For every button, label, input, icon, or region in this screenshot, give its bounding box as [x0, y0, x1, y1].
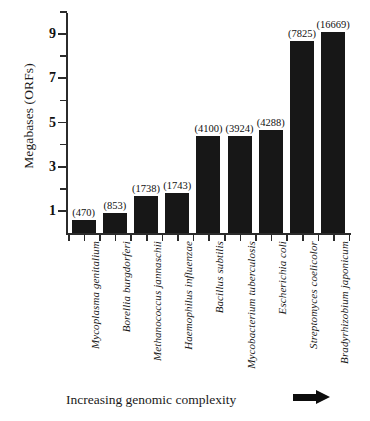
y-axis-title: Megabases (ORFs) [21, 21, 37, 211]
y-axis-line [66, 13, 68, 235]
x-tick [333, 234, 335, 241]
y-tick-minor [60, 100, 67, 102]
x-axis-caption: Increasing genomic complexity [66, 392, 236, 408]
bar-value-label: (16669) [309, 20, 357, 31]
x-tick [240, 234, 242, 241]
bar-value-label: (1743) [153, 181, 201, 192]
bar [228, 136, 252, 233]
arrow-head [316, 390, 330, 404]
category-label: Bacillus subtilis [213, 241, 225, 313]
y-tick-label: 3 [36, 160, 56, 174]
right-arrow-icon [293, 390, 331, 403]
x-tick [349, 234, 351, 241]
y-tick-minor [60, 144, 67, 146]
category-label: Mycobacterium tuberculosis [245, 241, 257, 369]
x-tick [302, 234, 304, 241]
category-label: Streptomyces coelicolor [307, 241, 319, 349]
category-label: Haemophilus influenzae [182, 241, 194, 350]
category-label: Bradyrhizobium japonicum [338, 241, 350, 364]
category-label: Mycoplasma genitalium [89, 241, 101, 349]
x-tick [271, 234, 273, 241]
bar-value-label: (853) [91, 201, 139, 212]
y-tick-label: 5 [36, 116, 56, 130]
x-tick [68, 234, 70, 241]
bar [72, 220, 96, 233]
bar [165, 193, 189, 233]
x-tick [208, 234, 210, 241]
x-tick [115, 234, 117, 241]
x-tick [286, 234, 288, 241]
y-tick-major [58, 33, 67, 35]
x-tick [224, 234, 226, 241]
bar [259, 130, 283, 233]
bar-chart-figure: Megabases (ORFs) 13579 (470)(853)(1738)(… [0, 0, 370, 421]
y-tick-major [58, 166, 67, 168]
x-tick [99, 234, 101, 241]
x-tick [177, 234, 179, 241]
bar [290, 41, 314, 233]
x-tick [84, 234, 86, 241]
category-label: Borellia burgdorferi [120, 241, 132, 332]
category-label: Escherichia coli [276, 241, 288, 314]
y-tick-label: 7 [36, 71, 56, 85]
x-tick [130, 234, 132, 241]
category-label: Methanococcus jannaschii [151, 241, 163, 361]
x-tick [162, 234, 164, 241]
x-tick [146, 234, 148, 241]
bar [321, 32, 345, 233]
bar-value-label: (4288) [247, 118, 295, 129]
y-tick-label: 1 [36, 204, 56, 218]
y-tick-minor [60, 55, 67, 57]
arrow-shaft [293, 394, 318, 401]
y-tick-major [58, 77, 67, 79]
y-tick-major [58, 122, 67, 124]
y-tick-label: 9 [36, 27, 56, 41]
y-tick-minor [60, 11, 67, 13]
bar-value-label: (7825) [278, 29, 326, 40]
y-tick-minor [60, 188, 67, 190]
